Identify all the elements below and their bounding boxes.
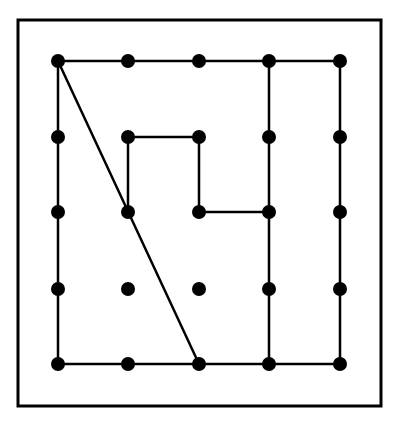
grid-dot xyxy=(121,282,135,296)
grid-dot xyxy=(262,205,276,219)
grid-dot xyxy=(333,54,347,68)
grid-dot xyxy=(262,130,276,144)
grid-dot xyxy=(192,130,206,144)
grid-dot xyxy=(333,357,347,371)
grid-dot xyxy=(333,282,347,296)
grid-dot xyxy=(192,205,206,219)
grid-dot xyxy=(121,205,135,219)
grid-dots xyxy=(51,54,347,371)
grid-dot xyxy=(51,54,65,68)
grid-dot xyxy=(333,130,347,144)
grid-dot xyxy=(192,357,206,371)
grid-dot xyxy=(121,130,135,144)
grid-dot xyxy=(121,357,135,371)
grid-dot xyxy=(262,357,276,371)
grid-dot xyxy=(262,282,276,296)
grid-dot xyxy=(51,357,65,371)
grid-dot xyxy=(262,54,276,68)
grid-dot xyxy=(51,130,65,144)
grid-dot xyxy=(192,282,206,296)
grid-dot xyxy=(51,205,65,219)
grid-dot xyxy=(51,282,65,296)
grid-dot xyxy=(192,54,206,68)
geoboard-diagram xyxy=(0,0,398,436)
grid-dot xyxy=(333,205,347,219)
grid-dot xyxy=(121,54,135,68)
